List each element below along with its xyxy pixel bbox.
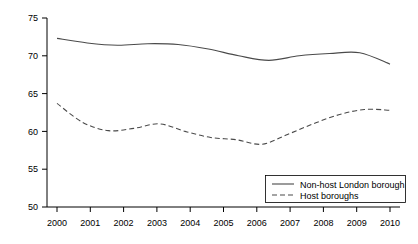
x-tick-label: 2008	[313, 218, 333, 228]
x-tick-label: 2004	[180, 218, 200, 228]
y-tick-label: 70	[28, 51, 38, 61]
y-tick-label: 60	[28, 127, 38, 137]
x-tick-label: 2010	[380, 218, 400, 228]
x-tick-label: 2007	[280, 218, 300, 228]
chart-container: 757065605550 200020012002200320042005200…	[0, 0, 418, 244]
x-tick-label: 2001	[80, 218, 100, 228]
x-tick-label: 2003	[147, 218, 167, 228]
y-tick-label: 50	[28, 202, 38, 212]
y-tick-label: 55	[28, 164, 38, 174]
x-tick-label: 2005	[213, 218, 233, 228]
y-tick-label: 65	[28, 89, 38, 99]
x-tick-label: 2002	[114, 218, 134, 228]
legend-label-host-boroughs: Host boroughs	[300, 191, 359, 201]
line-chart: 757065605550 200020012002200320042005200…	[0, 0, 418, 244]
legend: Non-host London borough Host boroughs	[266, 176, 406, 203]
x-tick-label: 2009	[347, 218, 367, 228]
y-tick-label: 75	[28, 13, 38, 23]
x-tick-label: 2000	[47, 218, 67, 228]
legend-label-non-host-london-borough: Non-host London borough	[300, 180, 405, 190]
x-tick-label: 2006	[247, 218, 267, 228]
